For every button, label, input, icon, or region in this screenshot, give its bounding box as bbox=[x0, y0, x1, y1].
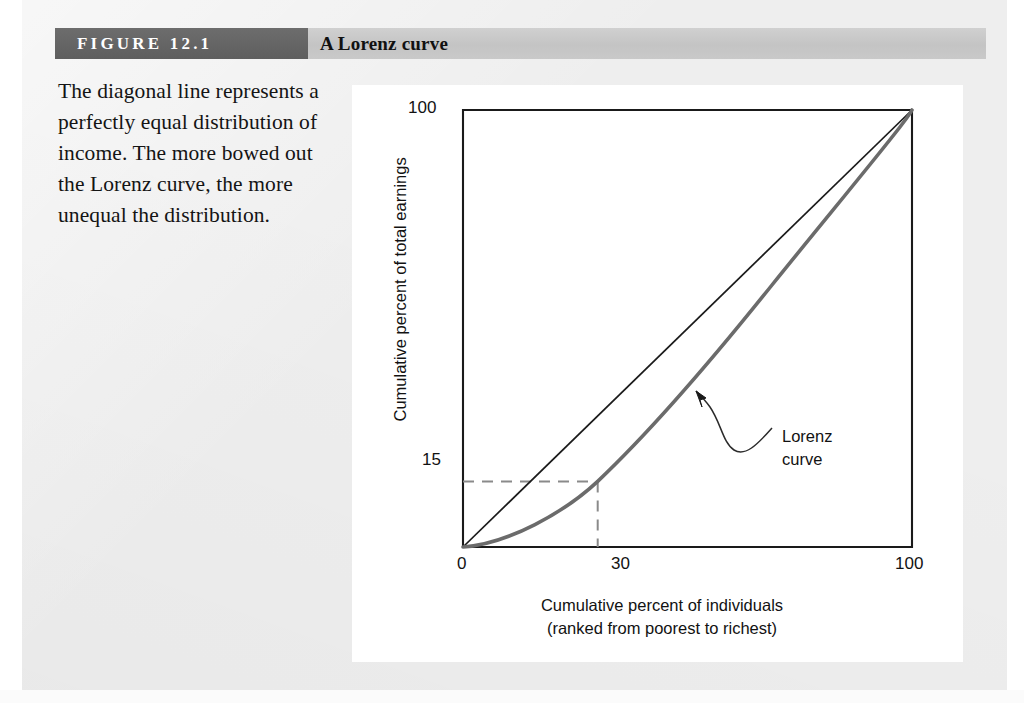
y-tick-100: 100 bbox=[408, 98, 436, 118]
x-tick-30: 30 bbox=[611, 554, 630, 574]
figure-header-band: FIGURE 12.1 A Lorenz curve bbox=[55, 28, 986, 59]
figure-caption: The diagonal line represents a perfectly… bbox=[58, 76, 330, 231]
figure-page: FIGURE 12.1 A Lorenz curve The diagonal … bbox=[0, 0, 1024, 703]
page-edge-bottom bbox=[0, 690, 1024, 703]
annotation-line1: Lorenz bbox=[782, 425, 832, 448]
lorenz-callout-arrow bbox=[696, 391, 772, 452]
x-axis-title-line2: (ranked from poorest to richest) bbox=[412, 617, 912, 640]
y-tick-15: 15 bbox=[422, 450, 441, 470]
dashed-guides bbox=[463, 481, 598, 547]
x-tick-100: 100 bbox=[895, 554, 923, 574]
x-axis-title-line1: Cumulative percent of individuals bbox=[412, 594, 912, 617]
figure-number-label: FIGURE 12.1 bbox=[77, 34, 212, 54]
lorenz-chart-svg bbox=[352, 85, 963, 662]
y-axis-title: Cumulative percent of total earnings bbox=[391, 192, 410, 422]
callout-arrow-head bbox=[696, 391, 706, 407]
figure-title: A Lorenz curve bbox=[320, 33, 448, 55]
callout-arrow-curve bbox=[696, 391, 772, 452]
equality-diagonal-line bbox=[463, 110, 912, 547]
page-edge-right bbox=[1007, 0, 1024, 703]
annotation-line2: curve bbox=[782, 448, 832, 471]
x-axis-title: Cumulative percent of individuals (ranke… bbox=[412, 594, 912, 640]
chart-card: 100 15 0 30 100 Cumulative percent of to… bbox=[352, 85, 963, 662]
x-tick-0: 0 bbox=[457, 554, 466, 574]
lorenz-curve-annotation: Lorenz curve bbox=[782, 425, 832, 471]
